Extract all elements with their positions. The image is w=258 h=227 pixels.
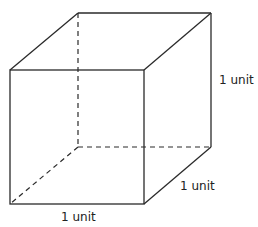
bottom-right-edge [144, 147, 211, 204]
depth-label: 1 unit [180, 179, 215, 193]
cube-edges [10, 13, 211, 204]
hidden-edges [10, 13, 211, 204]
hidden-left-bottom-edge [10, 147, 78, 204]
top-right-edge [144, 13, 211, 70]
front-face [10, 70, 144, 204]
top-left-edge [10, 13, 78, 70]
width-label: 1 unit [61, 210, 96, 224]
height-label: 1 unit [219, 73, 254, 87]
cube-diagram: 1 unit 1 unit 1 unit [0, 0, 258, 227]
